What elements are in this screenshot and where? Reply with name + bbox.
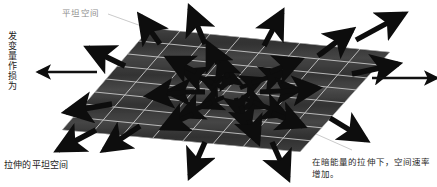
vertical-side-text: 发变量作损为 <box>3 31 17 141</box>
dark-energy-caption: 在暗能量的拉伸下，空间速率增加。 <box>312 156 434 181</box>
spacetime-grid-plane <box>62 28 390 152</box>
stretched-flat-space-label: 拉伸的平坦空间 <box>4 160 68 171</box>
flat-space-label: 平坦空间 <box>62 8 99 19</box>
diagram-canvas: 平坦空间 拉伸的平坦空间 在暗能量的拉伸下，空间速率增加。 发变量作损为 <box>0 0 437 187</box>
